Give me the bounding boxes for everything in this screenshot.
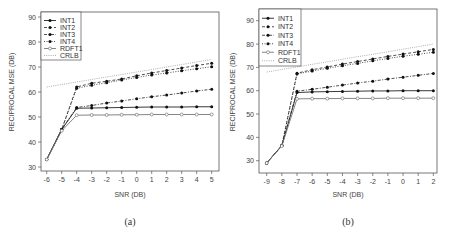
chart-a-point-rdft1	[120, 113, 123, 116]
chart-a-point-int4	[75, 87, 78, 90]
chart-b-line-int3	[267, 73, 434, 163]
chart-b-ytick-label: 50	[246, 111, 254, 118]
chart-a-caption: (a)	[124, 216, 135, 228]
chart-a-legend-label: INT2	[60, 24, 75, 31]
chart-a-point-int1	[180, 106, 183, 109]
chart-a-xtick-label: -1	[119, 176, 125, 183]
chart-b-point-int1	[341, 90, 344, 93]
chart-a-point-int4	[195, 67, 198, 70]
chart-b-point-int2	[432, 48, 435, 51]
chart-a-point-int3	[210, 88, 213, 91]
chart-a-point-int4	[210, 65, 213, 68]
chart-b-line-int4	[267, 52, 434, 163]
chart-a-point-rdft1	[150, 113, 153, 116]
chart-b-series-rdft1	[265, 97, 435, 165]
chart-a-xtick-label: 3	[180, 176, 184, 183]
chart-a-ytick-label: 80	[28, 39, 36, 46]
chart-a-xtick-label: -6	[44, 176, 50, 183]
chart-a-series-rdft1	[45, 113, 213, 161]
chart-b-point-int2	[417, 50, 420, 53]
chart-a-point-int2	[195, 64, 198, 67]
chart-b-point-int1	[386, 89, 389, 92]
chart-a-line-int3	[47, 89, 212, 159]
chart-a-point-rdft1	[135, 113, 138, 116]
chart-b-point-int1	[356, 90, 359, 93]
chart-b-point-rdft1	[371, 97, 374, 100]
chart-a-ytick-label: 70	[28, 64, 36, 71]
chart-b-point-rdft1	[326, 97, 329, 100]
chart-a-xtick-label: 2	[165, 176, 169, 183]
chart-b-xtick-label: -7	[294, 178, 300, 185]
chart-a-point-int4	[150, 74, 153, 77]
chart-a-xtick-label: 1	[150, 176, 154, 183]
chart-b-point-rdft1	[386, 97, 389, 100]
chart-a-line-rdft1	[47, 115, 212, 160]
chart-a-point-int4	[105, 81, 108, 84]
chart-a-legend-label: INT3	[60, 31, 75, 38]
chart-b-xtick-label: -6	[309, 178, 315, 185]
chart-a-xtick-label: -4	[74, 176, 80, 183]
chart-a-point-int1	[135, 106, 138, 109]
chart-a-point-int4	[120, 79, 123, 82]
chart-b-xtick-label: -3	[354, 178, 360, 185]
chart-b-point-int4	[417, 53, 420, 56]
chart-b-xtick-label: -4	[339, 178, 345, 185]
chart-a-point-int3	[135, 97, 138, 100]
chart-a-xtick-label: -5	[59, 176, 65, 183]
chart-a-point-rdft1	[105, 114, 108, 117]
chart-a-point-int2	[210, 62, 213, 65]
chart-a-point-rdft1	[90, 114, 93, 117]
chart-a-point-int1	[195, 105, 198, 108]
chart-a-point-int4	[90, 84, 93, 87]
chart-b-point-int4	[356, 62, 359, 65]
chart-a-legend-marker-int1	[49, 19, 52, 22]
chart-b-point-rdft1	[296, 97, 299, 100]
chart-b-point-int1	[326, 90, 329, 93]
chart-b-point-int3	[432, 72, 435, 75]
chart-b-point-rdft1	[417, 97, 420, 100]
chart-b-xtick-label: 1	[416, 178, 420, 185]
chart-a-xtick-label: -3	[89, 176, 95, 183]
chart-b-ytick-label: 30	[246, 157, 254, 164]
chart-a-point-int2	[180, 67, 183, 70]
chart-b-point-int4	[311, 70, 314, 73]
chart-a-xtick-label: 5	[210, 176, 214, 183]
chart-a-legend-label: CRLB	[60, 52, 79, 59]
chart-a-point-int4	[135, 76, 138, 79]
chart-b-point-int3	[402, 76, 405, 79]
chart-b-ylabel: RECIPROCAL MSE (DB)	[229, 53, 237, 132]
chart-a-series-int3	[45, 88, 213, 161]
chart-b-point-int3	[326, 86, 329, 89]
chart-b-point-int4	[432, 51, 435, 54]
chart-b-point-int3	[417, 74, 420, 77]
chart-b-point-int3	[356, 82, 359, 85]
chart-b-series-int1	[265, 89, 435, 164]
chart-a-ytick-label: 40	[28, 139, 36, 146]
chart-a-legend-marker-rdft1	[49, 47, 52, 50]
chart-a-point-rdft1	[75, 114, 78, 117]
chart-b-legend-label: INT2	[278, 23, 293, 30]
chart-a-point-int3	[90, 104, 93, 107]
chart-a-point-int3	[180, 92, 183, 95]
chart-b-point-rdft1	[356, 97, 359, 100]
chart-b-xtick-label: -8	[279, 178, 285, 185]
chart-a-point-int3	[105, 102, 108, 105]
chart-a-point-int1	[165, 106, 168, 109]
chart-a-point-int1	[105, 106, 108, 109]
chart-a-legend-marker-int3	[49, 33, 52, 36]
chart-b-point-int4	[326, 67, 329, 70]
chart-a-ylabel: RECIPROCAL MSE (DB)	[8, 53, 16, 132]
chart-a-point-rdft1	[195, 113, 198, 116]
chart-b-point-int3	[386, 78, 389, 81]
chart-b-point-rdft1	[402, 97, 405, 100]
chart-a-xtick-label: 4	[195, 176, 199, 183]
chart-a-point-rdft1	[210, 113, 213, 116]
chart-a-line-int4	[47, 67, 212, 160]
chart-b-point-int4	[341, 64, 344, 67]
chart-a-point-int3	[120, 100, 123, 103]
chart-a-legend: INT1INT2INT3INT4RDFT1CRLB	[41, 12, 83, 60]
chart-b-xtick-label: 2	[431, 178, 435, 185]
chart-b-point-int4	[296, 72, 299, 75]
chart-b-legend-marker-int1	[267, 17, 270, 20]
chart-a-ytick-label: 30	[28, 164, 36, 171]
